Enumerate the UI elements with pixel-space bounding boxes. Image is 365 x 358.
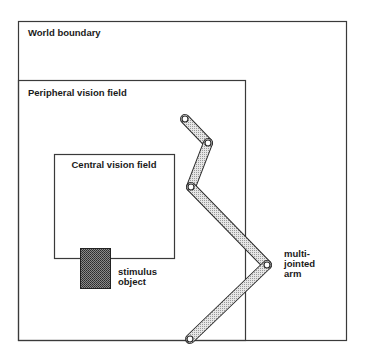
stimulus-label-line2: object — [118, 276, 147, 287]
arm-joint-5 — [187, 336, 193, 342]
central-vision-label: Central vision field — [72, 159, 157, 170]
arm-joint-4 — [264, 262, 270, 268]
central-vision-region — [55, 155, 175, 259]
arm-label-line3: arm — [284, 268, 301, 279]
arm-segment-4 — [190, 265, 267, 339]
arm-segment-3 — [191, 187, 267, 265]
peripheral-vision-label: Peripheral vision field — [28, 87, 127, 98]
world-boundary-label: World boundary — [28, 27, 101, 38]
arm-segment-2 — [191, 143, 208, 187]
arm-joint-1 — [182, 116, 188, 122]
arm-joint-3 — [188, 184, 194, 190]
stimulus-object — [81, 249, 111, 289]
multi-jointed-arm — [182, 116, 270, 342]
arm-joint-2 — [205, 140, 211, 146]
diagram-canvas: World boundary Peripheral vision field C… — [0, 0, 365, 358]
